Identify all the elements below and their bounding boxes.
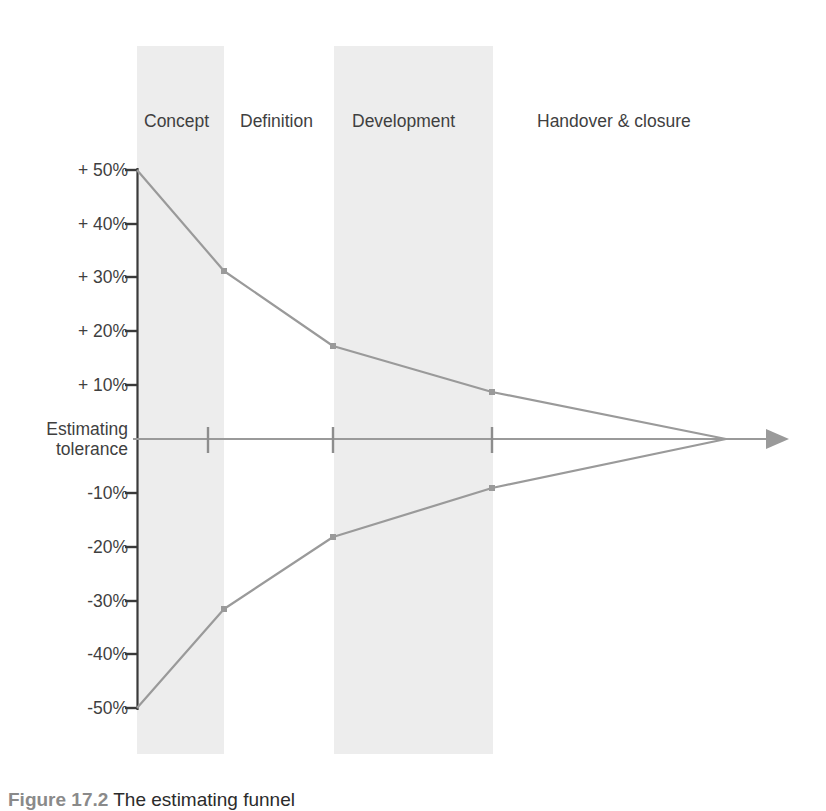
figure-caption-number: Figure 17.2 (8, 789, 108, 810)
x-axis-phase-ticks (208, 427, 492, 453)
marker-upper-plus8 (489, 389, 495, 395)
marker-lower-minus8 (489, 485, 495, 491)
marker-upper-plus16 (330, 343, 336, 349)
marker-lower-minus16 (330, 534, 336, 540)
series-lower-tolerance-line (137, 439, 726, 708)
funnel-plot-svg (0, 0, 826, 811)
marker-lower-minus30 (221, 606, 227, 612)
figure-caption: Figure 17.2 The estimating funnel (8, 789, 295, 811)
figure-caption-text: The estimating funnel (113, 789, 295, 810)
series-upper-tolerance-line (137, 170, 726, 439)
series-upper-tolerance-markers (221, 268, 495, 395)
marker-upper-plus30 (221, 268, 227, 274)
x-axis-arrow-icon (766, 429, 789, 449)
estimating-funnel-figure: Concept Definition Development Handover … (0, 0, 826, 811)
series-lower-tolerance-markers (221, 485, 495, 612)
